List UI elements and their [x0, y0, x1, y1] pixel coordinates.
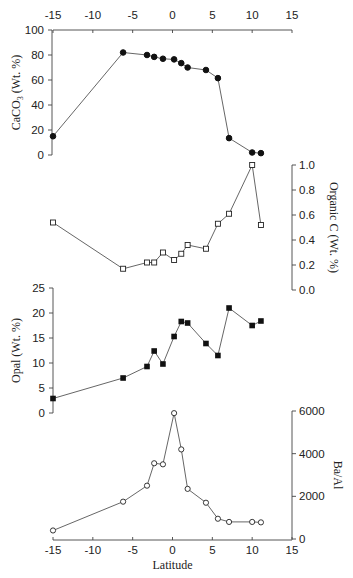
caco3-data-point — [160, 56, 166, 62]
y-tick-label: 60 — [31, 74, 44, 86]
opal-data-point — [258, 318, 264, 324]
opal-data-point — [178, 319, 184, 325]
organic-carbon-panel: 0.00.20.40.60.81.0Organic C (Wt. %) — [51, 159, 342, 296]
ba-al-data-point — [203, 500, 208, 505]
y-tick-label: 0 — [38, 149, 44, 161]
opal-data-point — [249, 323, 255, 329]
y-tick-label: 10 — [32, 357, 45, 369]
ba-al-data-point — [160, 462, 165, 467]
organic-carbon-axis-title: Organic C (Wt. %) — [327, 182, 341, 273]
ba-al-data-point — [179, 447, 184, 452]
organic-carbon-data-point — [172, 258, 177, 263]
opal-axis-title: Opal (Wt. %) — [9, 318, 23, 383]
organic-carbon-data-point — [145, 260, 150, 265]
y-tick-label: 0.2 — [299, 259, 315, 271]
y-tick-label: 0.0 — [299, 284, 315, 296]
ba-al-axis-title: Ba/Al — [331, 461, 345, 490]
x-tick-label: -5 — [128, 544, 138, 556]
y-tick-label: 25 — [32, 282, 45, 294]
organic-carbon-series-line — [53, 165, 261, 269]
x-tick-label: 0 — [169, 9, 175, 21]
y-tick-label: 0 — [299, 533, 305, 545]
x-tick-label: -5 — [128, 9, 138, 21]
opal-data-point — [160, 361, 166, 367]
caco3-data-point — [249, 150, 255, 156]
y-tick-label: 0.6 — [299, 209, 315, 221]
ba-al-series-line — [53, 413, 261, 530]
y-tick-label: 15 — [32, 332, 45, 344]
organic-carbon-data-point — [227, 211, 232, 216]
organic-carbon-data-point — [179, 251, 184, 256]
x-tick-label: 5 — [209, 9, 215, 21]
x-tick-label: 15 — [286, 9, 299, 21]
opal-data-point — [185, 320, 191, 326]
caco3-data-point — [203, 67, 209, 73]
x-tick-label: -15 — [45, 9, 62, 21]
organic-carbon-data-point — [51, 220, 56, 225]
latitude-axis-title: Latitude — [153, 558, 193, 572]
caco3-data-point — [50, 133, 56, 139]
opal-data-point — [203, 341, 209, 347]
ba-al-data-point — [121, 499, 126, 504]
y-tick-label: 5 — [39, 382, 45, 394]
opal-data-point — [171, 334, 177, 340]
x-tick-label: 10 — [246, 9, 259, 21]
x-tick-label: 10 — [246, 544, 259, 556]
ba-al-panel: 0200040006000Ba/Al-15-10-5051015Latitude — [45, 405, 345, 572]
y-tick-label: 80 — [31, 49, 44, 61]
organic-carbon-data-point — [215, 221, 220, 226]
caco3-data-point — [258, 150, 264, 156]
y-tick-label: 0 — [39, 407, 45, 419]
y-tick-label: 4000 — [299, 448, 325, 460]
y-tick-label: 40 — [31, 99, 44, 111]
organic-carbon-data-point — [121, 266, 126, 271]
opal-data-point — [226, 305, 232, 311]
opal-panel: 0510152025Opal (Wt. %) — [9, 282, 264, 419]
ba-al-data-point — [144, 483, 149, 488]
y-tick-label: 0.4 — [299, 234, 316, 246]
y-tick-label: 20 — [31, 124, 44, 136]
x-tick-label: -10 — [85, 9, 102, 21]
ba-al-data-point — [171, 411, 176, 416]
opal-data-point — [215, 353, 221, 359]
y-tick-label: 20 — [32, 307, 45, 319]
ba-al-data-point — [215, 516, 220, 521]
y-tick-label: 0.8 — [299, 184, 315, 196]
y-tick-label: 1.0 — [299, 159, 315, 171]
ba-al-data-point — [226, 519, 231, 524]
x-tick-label: 0 — [169, 544, 175, 556]
x-tick-label: -10 — [85, 544, 102, 556]
ba-al-data-point — [185, 486, 190, 491]
y-tick-label: 2000 — [299, 490, 325, 502]
organic-carbon-data-point — [152, 260, 157, 265]
caco3-data-point — [151, 54, 157, 60]
caco3-data-point — [215, 75, 221, 81]
y-tick-label: 6000 — [299, 405, 325, 417]
organic-carbon-data-point — [160, 250, 165, 255]
caco3-panel: 020406080100CaCO3 (Wt. %)-15-10-5051015 — [9, 9, 298, 161]
x-tick-label: 5 — [209, 544, 215, 556]
organic-carbon-data-point — [250, 163, 255, 168]
opal-data-point — [120, 375, 126, 381]
opal-data-point — [144, 364, 150, 370]
organic-carbon-data-point — [185, 243, 190, 248]
stacked-latitude-profile-chart: 020406080100CaCO3 (Wt. %)-15-10-5051015 … — [0, 0, 353, 578]
organic-carbon-data-point — [258, 223, 263, 228]
caco3-data-point — [144, 52, 150, 58]
ba-al-data-point — [250, 519, 255, 524]
ba-al-data-point — [152, 461, 157, 466]
x-tick-label: 15 — [286, 544, 299, 556]
caco3-data-point — [178, 60, 184, 66]
caco3-data-point — [171, 57, 177, 63]
x-tick-label: -15 — [45, 544, 62, 556]
ba-al-data-point — [50, 528, 55, 533]
y-tick-label: 100 — [25, 24, 44, 36]
caco3-axis-title: CaCO3 (Wt. %) — [9, 55, 25, 131]
opal-data-point — [151, 348, 157, 354]
organic-carbon-data-point — [203, 246, 208, 251]
caco3-data-point — [120, 50, 126, 56]
caco3-data-point — [226, 135, 232, 141]
caco3-data-point — [185, 65, 191, 71]
ba-al-data-point — [258, 520, 263, 525]
opal-data-point — [50, 396, 56, 402]
